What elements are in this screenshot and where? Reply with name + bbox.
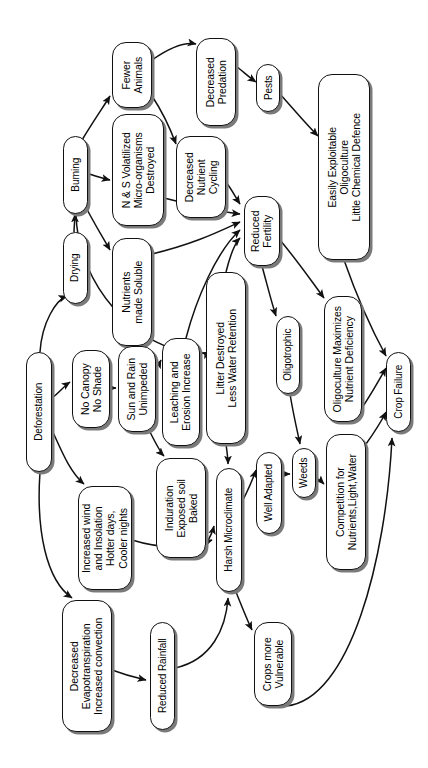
- node-label-sun-rain: Sun and RainUnimpeded: [125, 358, 149, 420]
- node-crop-failure[interactable]: Crop Failure: [386, 352, 411, 432]
- node-pests[interactable]: Pests: [256, 64, 280, 112]
- node-weeds[interactable]: Weeds: [292, 448, 316, 498]
- node-litter-destroyed[interactable]: Litter DestroyedLess Water Retention: [206, 272, 246, 444]
- node-label-litter-destroyed: Litter DestroyedLess Water Retention: [214, 309, 238, 408]
- node-well-adapted[interactable]: Well Adapted: [256, 452, 282, 534]
- node-deforestation[interactable]: Deforestation: [26, 352, 52, 472]
- node-decreased-nutrient-cycling[interactable]: DecreasedNutrientCycling: [176, 136, 226, 218]
- figure-canvas: DeforestationDryingBurningFewerAnimalsN …: [0, 0, 428, 768]
- node-burning[interactable]: Burning: [63, 136, 88, 214]
- node-label-decreased-predation: DecreasedPredation: [204, 57, 228, 107]
- node-label-no-canopy: No CanopyNo Shade: [79, 363, 103, 415]
- node-crops-vulnerable[interactable]: Crops moreVulnerable: [254, 622, 292, 706]
- node-label-easily-exploitable: Easily ExploitableOligocultureLittle Che…: [326, 113, 363, 222]
- node-label-increased-wind: Increased windand InsolationHotter days,…: [81, 503, 130, 572]
- node-label-drying: Drying: [70, 254, 82, 282]
- node-leaching-erosion[interactable]: Leaching andErosion Increase: [162, 338, 200, 446]
- node-label-weeds: Weeds: [298, 458, 310, 488]
- node-no-canopy[interactable]: No CanopyNo Shade: [72, 350, 110, 428]
- node-label-reduced-rainfall: Reduced Rainfall: [157, 639, 169, 714]
- node-oligotrophic[interactable]: Oligotrophic: [276, 316, 300, 394]
- node-label-competition: Competition forNutrients,Light,Water: [334, 454, 358, 550]
- node-label-nutrients-soluble: Nutrientsmade Soluble: [120, 260, 144, 323]
- node-label-oligoculture-maximizes: Oligoculture MaximizesNutrient Deficienc…: [331, 306, 355, 412]
- node-competition[interactable]: Competition forNutrients,Light,Water: [326, 434, 366, 570]
- node-label-pests: Pests: [262, 76, 274, 101]
- node-harsh-microclimate[interactable]: Harsh Microclimate: [216, 468, 242, 592]
- node-reduced-fertility[interactable]: ReducedFertility: [244, 196, 280, 266]
- node-fewer-animals[interactable]: FewerAnimals: [112, 42, 152, 108]
- node-nutrients-soluble[interactable]: Nutrientsmade Soluble: [112, 238, 152, 346]
- node-ns-volatilized[interactable]: N & S VolatilizedMicro-organismsDestroye…: [112, 114, 164, 226]
- node-sun-rain[interactable]: Sun and RainUnimpeded: [118, 346, 156, 432]
- node-label-crop-failure: Crop Failure: [393, 365, 405, 419]
- node-label-deforestation: Deforestation: [33, 383, 45, 441]
- node-label-decreased-nutrient-cycling: DecreasedNutrientCycling: [183, 152, 220, 202]
- node-easily-exploitable[interactable]: Easily ExploitableOligocultureLittle Che…: [318, 74, 370, 260]
- node-drying[interactable]: Drying: [63, 232, 88, 304]
- node-label-decreased-evapo: DecreasedEvapotranspirationIncreased con…: [69, 617, 106, 714]
- node-increased-wind[interactable]: Increased windand InsolationHotter days,…: [78, 486, 132, 590]
- node-induration[interactable]: IndurationExposed soilBaked: [156, 458, 206, 558]
- node-label-crops-vulnerable: Crops moreVulnerable: [261, 637, 285, 691]
- node-label-leaching-erosion: Leaching andErosion Increase: [169, 353, 193, 430]
- node-label-fewer-animals: FewerAnimals: [120, 57, 144, 94]
- node-label-burning: Burning: [70, 158, 82, 192]
- node-reduced-rainfall[interactable]: Reduced Rainfall: [150, 622, 175, 730]
- node-decreased-evapo[interactable]: DecreasedEvapotranspirationIncreased con…: [62, 600, 112, 732]
- node-label-harsh-microclimate: Harsh Microclimate: [223, 488, 235, 572]
- node-label-oligotrophic: Oligotrophic: [282, 329, 294, 381]
- node-label-well-adapted: Well Adapted: [263, 464, 275, 522]
- node-label-induration: IndurationExposed soilBaked: [163, 479, 200, 537]
- node-oligoculture-maximizes[interactable]: Oligoculture MaximizesNutrient Deficienc…: [324, 296, 362, 422]
- node-label-reduced-fertility: ReducedFertility: [250, 210, 274, 251]
- node-decreased-predation[interactable]: DecreasedPredation: [196, 38, 236, 126]
- node-label-ns-volatilized: N & S VolatilizedMicro-organismsDestroye…: [120, 132, 157, 208]
